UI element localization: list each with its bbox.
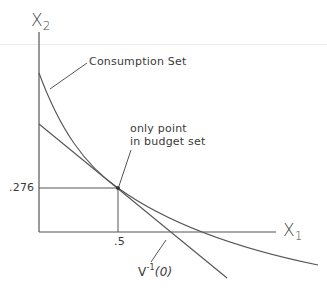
consumption-set-label: Consumption Set <box>89 55 186 68</box>
x-axis-label: X1 <box>283 220 303 243</box>
x-tick-label: .5 <box>114 235 125 248</box>
level-set-label: V-1(0) <box>138 263 172 279</box>
only-point-leader <box>119 150 131 186</box>
y-tick-label: .276 <box>9 181 34 194</box>
only-point-label: only point in budget set <box>130 122 205 148</box>
level-set-leader <box>151 240 166 262</box>
tangency-point <box>116 186 120 190</box>
consumption-set-leader <box>50 63 87 89</box>
y-axis-label: X2 <box>31 10 51 33</box>
consumption-set-curve <box>39 73 318 265</box>
